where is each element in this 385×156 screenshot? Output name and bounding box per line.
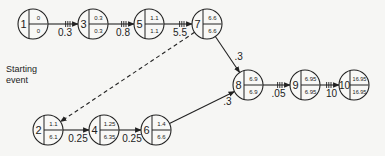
node-earliest-time: 1.1 bbox=[49, 121, 58, 127]
node-id: 5 bbox=[136, 18, 142, 30]
node-id: 8 bbox=[235, 79, 241, 91]
edge-duration-label: .3 bbox=[223, 96, 232, 107]
node-earliest-time: 1.1 bbox=[150, 15, 159, 21]
node-id: 2 bbox=[35, 124, 41, 136]
node-earliest-time: 1.25 bbox=[104, 121, 116, 127]
node-latest-time: 6.6 bbox=[208, 28, 217, 34]
edge-duration-label: 0.8 bbox=[116, 27, 130, 38]
edge-duration-label: 0.25 bbox=[122, 133, 142, 144]
node-earliest-time: 0.3 bbox=[94, 15, 103, 21]
edge-duration-label: .05 bbox=[272, 88, 286, 99]
node-earliest-time: 1.4 bbox=[157, 121, 166, 127]
edge-duration-label: .3 bbox=[235, 51, 244, 62]
starting-event-label: Starting event bbox=[6, 64, 37, 86]
pert-diagram: 0.30.85.5.3.05100.250.25.3 10030.30.351.… bbox=[0, 0, 385, 156]
event-node-7: 76.66.6 bbox=[192, 9, 222, 39]
edge-7-2 bbox=[60, 32, 194, 121]
node-latest-time: 6.35 bbox=[104, 134, 116, 140]
event-node-2: 21.16.1 bbox=[33, 115, 63, 145]
node-id: 6 bbox=[143, 124, 149, 136]
network-canvas: 0.30.85.5.3.05100.250.25.3 10030.30.351.… bbox=[0, 0, 385, 156]
edge-duration-label: 0.25 bbox=[68, 133, 88, 144]
edge-duration-label: 5.5 bbox=[173, 27, 187, 38]
event-node-6: 61.46.6 bbox=[141, 115, 171, 145]
node-id: 1 bbox=[20, 18, 26, 30]
node-id: 3 bbox=[80, 18, 86, 30]
event-node-5: 51.11.1 bbox=[134, 9, 164, 39]
node-id: 4 bbox=[91, 124, 97, 136]
node-latest-time: 1.1 bbox=[150, 28, 159, 34]
node-latest-time: 6.9 bbox=[249, 89, 258, 95]
node-id: 10 bbox=[339, 80, 351, 91]
node-latest-time: 6.6 bbox=[157, 134, 166, 140]
event-node-8: 86.96.9 bbox=[233, 70, 263, 100]
node-latest-time: 6.1 bbox=[49, 134, 58, 140]
starting-label-line2: event bbox=[6, 75, 37, 86]
node-earliest-time: 6.95 bbox=[305, 76, 317, 82]
event-node-1: 100 bbox=[18, 9, 48, 39]
node-latest-time: 16.95 bbox=[353, 89, 367, 95]
node-latest-time: 6.95 bbox=[305, 89, 317, 95]
event-node-4: 41.256.35 bbox=[89, 115, 119, 145]
node-id: 7 bbox=[194, 18, 200, 30]
edge-duration-label: 10 bbox=[326, 88, 338, 99]
starting-label-line1: Starting bbox=[6, 64, 37, 75]
event-node-10: 1016.9516.95 bbox=[339, 70, 369, 100]
event-node-9: 96.956.95 bbox=[290, 70, 320, 100]
edge-duration-label: 0.3 bbox=[58, 27, 72, 38]
node-earliest-time: 6.9 bbox=[249, 76, 258, 82]
node-id: 9 bbox=[292, 79, 298, 91]
node-earliest-time: 6.6 bbox=[208, 15, 217, 21]
event-node-3: 30.30.3 bbox=[78, 9, 108, 39]
node-latest-time: 0.3 bbox=[94, 28, 103, 34]
node-earliest-time: 16.95 bbox=[353, 76, 367, 82]
